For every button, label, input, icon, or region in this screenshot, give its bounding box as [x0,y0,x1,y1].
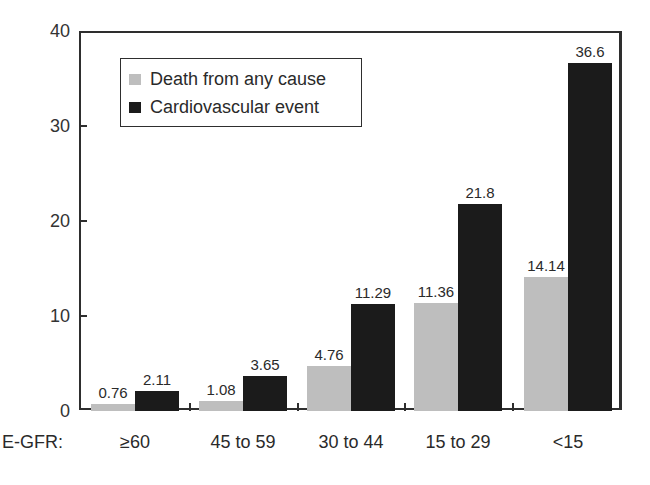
x-tick [512,403,514,411]
value-label: 3.65 [235,357,295,373]
value-label: 1.08 [191,382,251,398]
bar-cardiovascular [243,376,287,411]
x-category-label: 45 to 59 [188,432,298,452]
legend: Death from any cause Cardiovascular even… [120,58,362,127]
legend-item-cardiovascular: Cardiovascular event [129,96,319,118]
value-label: 36.6 [560,44,620,60]
legend-label: Death from any cause [150,69,326,89]
bar-cardiovascular [568,63,612,411]
value-label: 14.14 [516,258,576,274]
value-label: 21.8 [450,185,510,201]
x-tick [189,403,191,411]
y-label-20: 20 [30,212,70,230]
y-tick-30 [79,125,87,127]
x-tick [404,403,406,411]
x-axis-name: E-GFR: [2,432,63,452]
bar-death [307,366,351,411]
bar-death [91,404,135,411]
bar-cardiovascular [351,304,395,411]
legend-swatch-black-icon [129,102,141,113]
bar-death [414,303,458,411]
y-label-0: 0 [30,402,70,420]
x-category-label: 15 to 29 [403,432,513,452]
bar-cardiovascular [458,204,502,411]
x-category-label: 30 to 44 [296,432,406,452]
value-label: 4.76 [299,347,359,363]
legend-swatch-gray-icon [129,74,141,85]
y-label-40: 40 [30,22,70,40]
x-category-label: <15 [513,432,623,452]
bar-death [524,277,568,411]
y-tick-10 [79,315,87,317]
bar-death [199,401,243,411]
y-label-30: 30 [30,117,70,135]
y-label-10: 10 [30,307,70,325]
value-label: 2.11 [127,372,187,388]
y-tick-20 [79,220,87,222]
value-label: 11.29 [343,285,403,301]
legend-item-death: Death from any cause [129,68,326,90]
x-tick [297,403,299,411]
value-label: 11.36 [406,284,466,300]
legend-label: Cardiovascular event [150,97,319,117]
x-category-label: ≥60 [80,432,190,452]
bar-cardiovascular [135,391,179,411]
